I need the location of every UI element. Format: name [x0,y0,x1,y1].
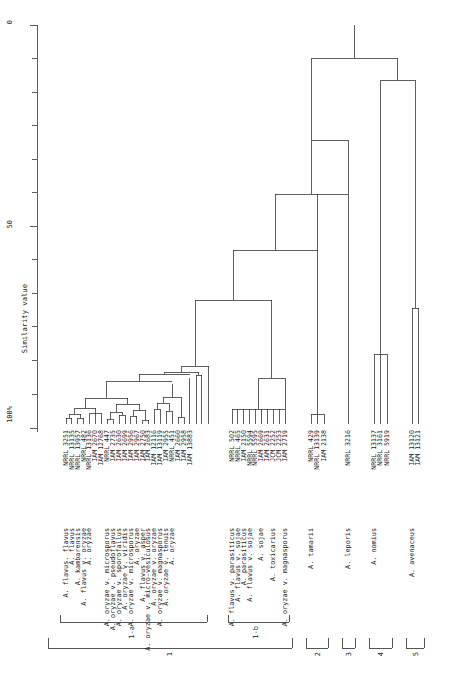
strain-label: IAM 2719 [282,430,289,462]
species-label: A. toxicarius [270,528,277,581]
group-label-1: 1 [166,652,174,656]
species-label: A. tamarii [308,528,315,569]
strain-label: IAM 2138 [321,430,328,462]
species-label: A. avenaceus [409,528,416,577]
group-label-5: 5 [412,652,420,656]
species-label: A. sojae [258,528,265,561]
strain-label: IAM 13883 [187,430,194,466]
strain-label: NRRL 3216 [345,430,352,466]
species-label: A. leporis [345,528,352,569]
strain-label: NRRL 5919 [384,430,391,466]
dendrogram-figure: 0 50 100% Similarity value [0,0,461,673]
species-label: A. oryzae [169,528,176,565]
group-label-3: 3 [345,652,353,656]
group-label-4: 4 [377,652,385,656]
group-label-2: 2 [314,652,322,656]
group-label-1-a: 1-a [128,626,136,639]
species-label: A. oryzae [86,528,93,565]
species-label: A. flavus v. sojae [247,528,254,602]
species-label: A. oryzae v. magnasporus [282,528,289,626]
strain-label: IAM 13121 [415,430,422,466]
group-label-1-b: 1-b [252,626,260,639]
species-label: A. nomius [371,528,378,565]
